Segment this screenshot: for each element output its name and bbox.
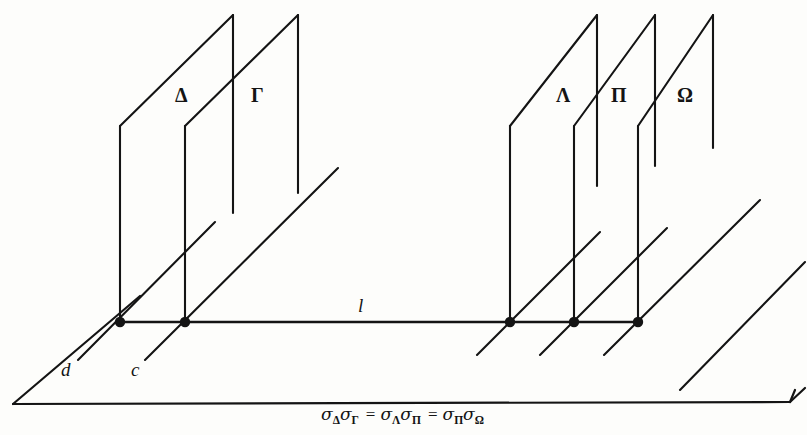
caption-sub-delta: Δ — [333, 414, 340, 427]
caption-term-2: σΛσΠ — [380, 405, 422, 424]
sigma-glyph: σ — [380, 404, 392, 424]
plane-label-gamma: Γ — [251, 85, 264, 105]
line-label-c: c — [131, 360, 139, 379]
sigma-glyph: σ — [400, 404, 412, 424]
sigma-glyph: σ — [321, 404, 333, 424]
caption-sub-gamma: Γ — [351, 414, 358, 427]
plane-pi-edge-top — [574, 15, 655, 126]
caption-term-1: σΔσΓ — [321, 405, 361, 424]
plane-gamma-edge-top — [185, 15, 298, 126]
caption-equals-2: = — [423, 405, 443, 424]
sigma-glyph: σ — [340, 404, 352, 424]
line-d — [78, 222, 215, 360]
ground-guide-line-right — [680, 262, 805, 390]
caption-sub-omega: Ω — [475, 414, 484, 427]
caption-sub-pi: Π — [412, 414, 421, 427]
caption-formula: σΔσΓ=σΛσΠ=σΠσΩ — [0, 404, 807, 427]
plane-omega-edge-top — [638, 15, 713, 126]
line-label-l: l — [358, 296, 363, 315]
plane-label-lambda: Λ — [556, 85, 570, 105]
diagram-canvas — [0, 0, 807, 435]
caption-equals-1: = — [361, 405, 381, 424]
sigma-glyph: σ — [443, 404, 455, 424]
geometry-figure: Δ Γ Λ Π Ω l d c σΔσΓ=σΛσΠ=σΠσΩ — [0, 0, 807, 435]
caption-term-3: σΠσΩ — [443, 405, 486, 424]
point-gamma — [180, 317, 190, 327]
line-label-d: d — [61, 360, 71, 379]
plane-delta-edge-top — [120, 15, 233, 126]
plane-lambda-edge-top — [510, 15, 597, 126]
caption-sub-pi-2: Π — [454, 414, 463, 427]
point-delta — [115, 317, 125, 327]
plane-lambda-base-diagonal — [477, 232, 600, 355]
point-pi — [569, 317, 579, 327]
plane-pi-base-diagonal — [540, 228, 667, 355]
point-omega — [633, 317, 643, 327]
point-lambda — [505, 317, 515, 327]
plane-label-pi: Π — [611, 85, 627, 105]
plane-label-omega: Ω — [677, 85, 693, 105]
plane-label-delta: Δ — [175, 85, 188, 105]
sigma-glyph: σ — [463, 404, 475, 424]
